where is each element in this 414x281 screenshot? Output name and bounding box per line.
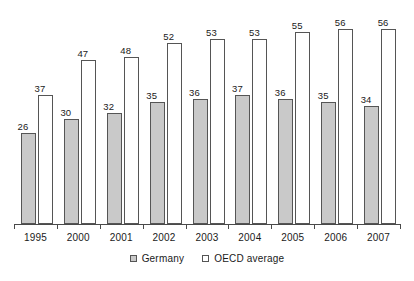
bar-group: 3556 — [314, 8, 357, 224]
bar-germany-2003 — [193, 99, 208, 224]
bar-oecd-2004 — [252, 39, 267, 224]
x-axis-tick — [57, 225, 58, 229]
x-axis-tick — [314, 225, 315, 229]
bar-value-label: 26 — [9, 121, 37, 132]
bar-value-label: 56 — [369, 17, 397, 28]
x-axis-tick — [357, 225, 358, 229]
bar-group: 3456 — [357, 8, 400, 224]
bar-value-label: 35 — [138, 90, 166, 101]
bar-chart: 263730473248355236533753365535563456 Ger… — [0, 0, 414, 281]
x-axis-tick — [100, 225, 101, 229]
bar-group: 3047 — [57, 8, 100, 224]
bar-oecd-2003 — [210, 39, 225, 224]
bar-group: 3552 — [143, 8, 186, 224]
bar-group: 3248 — [100, 8, 143, 224]
bar-germany-2001 — [107, 113, 122, 224]
bar-value-label: 36 — [181, 87, 209, 98]
plot-area: 263730473248355236533753365535563456 — [14, 8, 400, 224]
bar-value-label: 37 — [223, 83, 251, 94]
x-axis-tick — [400, 225, 401, 229]
bar-value-label: 35 — [309, 90, 337, 101]
bar-value-label: 30 — [52, 107, 80, 118]
x-axis-line — [14, 224, 401, 225]
bar-value-label: 53 — [240, 27, 268, 38]
bar-germany-2004 — [235, 95, 250, 224]
bar-value-label: 48 — [112, 45, 140, 56]
bar-oecd-2000 — [81, 60, 96, 224]
legend-item-oecd-average: OECD average — [202, 253, 284, 264]
bar-germany-2006 — [321, 102, 336, 224]
bar-value-label: 52 — [155, 31, 183, 42]
bar-group: 3655 — [271, 8, 314, 224]
bar-oecd-2007 — [381, 29, 396, 224]
bar-group: 3753 — [228, 8, 271, 224]
bar-oecd-2006 — [338, 29, 353, 224]
legend-label-oecd-average: OECD average — [214, 253, 284, 264]
bar-oecd-2002 — [167, 43, 182, 224]
bar-value-label: 56 — [326, 17, 354, 28]
bar-value-label: 36 — [266, 87, 294, 98]
bar-germany-2007 — [364, 106, 379, 224]
bar-germany-2000 — [64, 119, 79, 224]
x-axis-label-2007: 2007 — [349, 231, 409, 244]
gray-square-icon — [130, 255, 137, 262]
bar-oecd-2005 — [295, 32, 310, 224]
white-square-icon — [202, 255, 209, 262]
bar-group: 3653 — [186, 8, 229, 224]
bar-value-label: 32 — [95, 101, 123, 112]
bar-germany-1995 — [21, 133, 36, 224]
bar-value-label: 47 — [69, 48, 97, 59]
chart-legend: Germany OECD average — [0, 253, 414, 264]
bar-group: 2637 — [14, 8, 57, 224]
bar-germany-2002 — [150, 102, 165, 224]
legend-item-germany: Germany — [130, 253, 185, 264]
bar-value-label: 34 — [352, 94, 380, 105]
bar-germany-2005 — [278, 99, 293, 224]
bar-value-label: 55 — [283, 20, 311, 31]
x-axis-tick — [228, 225, 229, 229]
x-axis-tick — [14, 225, 15, 229]
x-axis-tick — [271, 225, 272, 229]
legend-label-germany: Germany — [142, 253, 185, 264]
x-axis-tick — [143, 225, 144, 229]
bar-value-label: 37 — [26, 83, 54, 94]
bar-oecd-1995 — [38, 95, 53, 224]
x-axis-tick — [186, 225, 187, 229]
bar-oecd-2001 — [124, 57, 139, 224]
bar-value-label: 53 — [198, 27, 226, 38]
